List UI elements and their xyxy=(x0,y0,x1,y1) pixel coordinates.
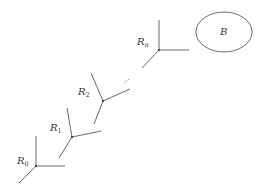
svg-text:R0: R0 xyxy=(16,155,29,168)
frame-subscript: 1 xyxy=(58,127,62,135)
frame-r1: R1 xyxy=(49,108,101,158)
ellipsis-dots: ... xyxy=(120,74,130,84)
body-b: B xyxy=(196,12,252,52)
svg-text:R2: R2 xyxy=(77,86,90,99)
frame-subscript: 2 xyxy=(86,91,90,99)
diagram-svg: R0 R1 R2 ... Rn B xyxy=(0,0,266,194)
frame-r0: R0 xyxy=(16,136,65,183)
frame-subscript: 0 xyxy=(25,160,29,168)
svg-text:R1: R1 xyxy=(49,122,62,135)
frame-subscript: n xyxy=(145,41,149,49)
frame-rn: Rn xyxy=(136,20,189,68)
svg-text:Rn: Rn xyxy=(136,36,149,49)
body-label: B xyxy=(219,26,227,37)
kinematic-chain-diagram: R0 R1 R2 ... Rn B xyxy=(0,0,266,194)
